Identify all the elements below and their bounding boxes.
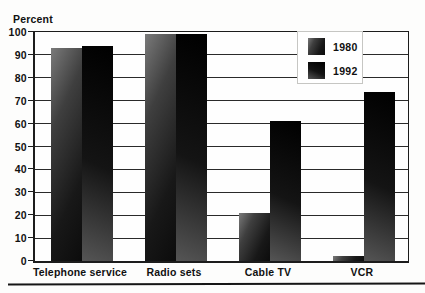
y-axis-title: Percent [13, 13, 53, 25]
legend-swatch-1992 [308, 62, 325, 79]
y-tick-label-40: 40 [1, 163, 27, 175]
legend-item-1980: 1980 [298, 38, 362, 55]
x-category-label-vcr: VCR [302, 266, 422, 278]
legend-swatch-1980 [308, 38, 325, 55]
y-tick-mark-40 [28, 168, 33, 169]
y-tick-label-60: 60 [1, 118, 27, 130]
y-tick-mark-70 [28, 100, 33, 101]
y-tick-label-100: 100 [1, 26, 27, 38]
y-tick-mark-30 [28, 191, 33, 192]
y-tick-mark-10 [28, 237, 33, 238]
y-tick-mark-90 [28, 54, 33, 55]
y-tick-label-50: 50 [1, 141, 27, 153]
legend: 19801992 [297, 31, 363, 84]
y-tick-mark-20 [28, 214, 33, 215]
page-rule [8, 283, 425, 286]
y-tick-mark-60 [28, 123, 33, 124]
y-tick-mark-100 [28, 31, 33, 32]
y-tick-label-10: 10 [1, 232, 27, 244]
bar-radio-sets-1980 [145, 34, 176, 261]
y-tick-label-30: 30 [1, 186, 27, 198]
bar-cable-tv-1992 [270, 121, 301, 261]
y-tick-mark-50 [28, 146, 33, 147]
y-tick-label-20: 20 [1, 209, 27, 221]
bar-telephone-service-1980 [51, 48, 82, 261]
bar-vcr-1992 [364, 92, 395, 262]
legend-label-1980: 1980 [333, 41, 358, 53]
y-tick-mark-0 [28, 260, 33, 261]
y-tick-label-80: 80 [1, 72, 27, 84]
bar-telephone-service-1992 [82, 46, 113, 261]
legend-item-1992: 1992 [298, 62, 362, 79]
y-tick-mark-80 [28, 77, 33, 78]
bar-cable-tv-1980 [239, 213, 270, 261]
bar-vcr-1980 [333, 256, 364, 261]
chart: Percent 19801992 0102030405060708090100T… [0, 0, 425, 293]
y-tick-label-90: 90 [1, 49, 27, 61]
legend-label-1992: 1992 [333, 65, 358, 77]
bar-radio-sets-1992 [176, 34, 207, 261]
y-tick-label-70: 70 [1, 95, 27, 107]
